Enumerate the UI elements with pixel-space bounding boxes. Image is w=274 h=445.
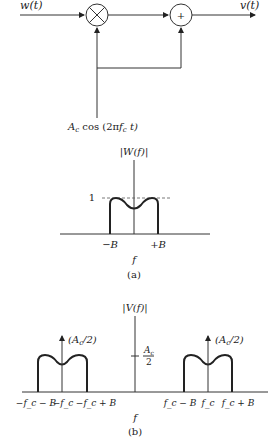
half-amplitude-numerator: Ac xyxy=(143,345,155,356)
adder-icon: + xyxy=(170,4,192,26)
right-impulse-label: (Ac/2) xyxy=(215,334,244,347)
v-axis-label: |V(f)| xyxy=(122,302,147,314)
input-label: w(t) xyxy=(20,0,42,12)
spectrum-v: |V(f)| Ac 2 (Ac/2) (Ac/2) −f_c − B −f_c … xyxy=(16,302,268,437)
multiplier-icon xyxy=(86,4,108,26)
tick-label-minus-b: −B xyxy=(102,239,118,250)
spectrum-w: |W(f)| 1 −B +B f (a) xyxy=(60,146,210,280)
unity-level-label: 1 xyxy=(89,192,95,203)
block-diagram: w(t) + v(t) Ac cos (2πfc t) xyxy=(20,0,259,134)
am-modulator-diagram: w(t) + v(t) Ac cos (2πfc t) |W(f)| 1 −B xyxy=(0,0,274,445)
w-axis-label: |W(f)| xyxy=(120,146,149,158)
caption-a: (a) xyxy=(127,269,141,280)
tick-label-neg-fc-minus-b: −f_c − B xyxy=(16,398,57,409)
w-x-label: f xyxy=(131,254,138,265)
svg-text:+: + xyxy=(177,10,185,21)
tick-label-fc: f_c xyxy=(201,398,215,409)
output-label: v(t) xyxy=(240,0,259,12)
tick-label-neg-fc: −f_c xyxy=(53,398,73,409)
tick-label-neg-fc-plus-b: −f_c + B xyxy=(76,398,117,409)
left-impulse-label: (Ac/2) xyxy=(68,334,97,347)
tick-label-fc-minus-b: f_c − B xyxy=(163,398,197,409)
carrier-label: Ac cos (2πfc t) xyxy=(67,121,138,134)
carrier-branch-arrow xyxy=(97,28,181,68)
caption-b: (b) xyxy=(128,426,142,437)
v-x-label: f xyxy=(132,412,139,423)
tick-label-plus-b: +B xyxy=(150,239,166,250)
tick-label-fc-plus-b: f_c + B xyxy=(221,398,255,409)
half-amplitude-denominator: 2 xyxy=(146,357,152,367)
